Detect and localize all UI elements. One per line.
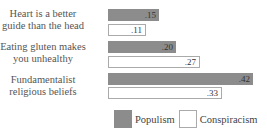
bar-populism-0: .15 [108,9,159,21]
label-line: Heart is a better [0,8,93,20]
label-line: Fundamentalist [0,74,93,86]
label-line: you unhealthy [0,53,93,65]
bar-conspiracism-1: .27 [108,56,200,68]
legend: Populism Conspiracism [114,110,257,128]
legend-label-conspiracism: Conspiracism [200,114,258,125]
legend-label-populism: Populism [135,114,175,125]
legend-swatch-populism [114,110,132,128]
label-line: guide than the head [0,20,93,32]
bar-conspiracism-2: .33 [108,87,222,99]
bar-conspiracism-0: .11 [108,24,146,36]
bar-populism-2: .42 [108,73,253,85]
legend-swatch-conspiracism [179,110,197,128]
category-label-1: Eating gluten makes you unhealthy [0,41,93,65]
category-label-0: Heart is a better guide than the head [0,8,93,32]
label-line: religious beliefs [0,86,93,98]
label-line: Eating gluten makes [0,41,93,53]
category-label-2: Fundamentalist religious beliefs [0,74,93,98]
bar-populism-1: .20 [108,41,176,53]
